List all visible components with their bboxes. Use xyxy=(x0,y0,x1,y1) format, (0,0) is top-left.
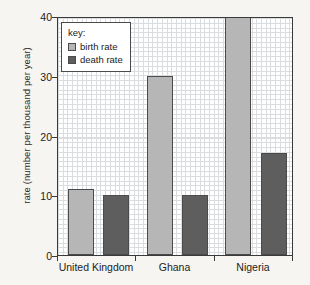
y-tick-label-20: 20 xyxy=(30,132,52,143)
legend: key: birth rate death rate xyxy=(61,22,131,72)
bar-nigeria-birth-rate xyxy=(225,17,251,255)
bar-ghana-death-rate xyxy=(182,195,208,255)
bar-united-kingdom-birth-rate xyxy=(68,189,94,255)
bar-chart: rate (number per thousand per year) 40 3… xyxy=(0,0,310,285)
legend-item-birth-rate: birth rate xyxy=(68,41,123,54)
y-tick-label-40: 40 xyxy=(30,12,52,23)
x-category-label-united-kingdom: United Kingdom xyxy=(57,261,135,273)
x-tick-mark-right xyxy=(292,256,293,261)
legend-label-death-rate: death rate xyxy=(80,54,123,67)
y-tick-label-0: 0 xyxy=(30,251,52,262)
y-tick-label-10: 10 xyxy=(30,191,52,202)
legend-title: key: xyxy=(68,27,123,40)
bar-ghana-birth-rate xyxy=(147,76,173,255)
y-axis-tick-labels: 40 30 20 10 0 xyxy=(28,0,52,285)
bar-nigeria-death-rate xyxy=(261,153,287,255)
x-category-label-ghana: Ghana xyxy=(135,261,214,273)
y-tick-label-30: 30 xyxy=(30,72,52,83)
legend-label-birth-rate: birth rate xyxy=(80,41,118,54)
legend-swatch-death-rate xyxy=(68,56,76,64)
legend-swatch-birth-rate xyxy=(68,43,76,51)
x-category-label-nigeria: Nigeria xyxy=(214,261,292,273)
legend-item-death-rate: death rate xyxy=(68,54,123,67)
bar-united-kingdom-death-rate xyxy=(103,195,129,255)
